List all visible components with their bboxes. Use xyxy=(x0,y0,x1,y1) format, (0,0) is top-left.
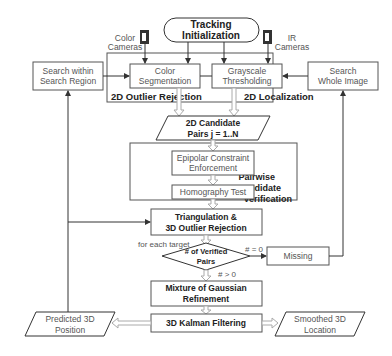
svg-text:Location: Location xyxy=(304,325,336,335)
svg-text:2D Localization: 2D Localization xyxy=(244,91,314,102)
triangulation-node: Triangulation & 3D Outlier Rejection xyxy=(151,209,262,235)
svg-text:Missing: Missing xyxy=(284,251,313,261)
svg-text:Pairs: Pairs xyxy=(197,257,215,266)
svg-text:Thresholding: Thresholding xyxy=(222,76,271,86)
svg-text:Predicted 3D: Predicted 3D xyxy=(45,314,94,324)
svg-text:Color: Color xyxy=(155,66,175,76)
svg-text:# > 0: # > 0 xyxy=(218,270,237,279)
svg-text:Triangulation &: Triangulation & xyxy=(175,212,237,222)
ir-camera-icon xyxy=(263,30,272,44)
svg-text:Refinement: Refinement xyxy=(183,294,229,304)
svg-text:2D Candidate: 2D Candidate xyxy=(186,118,241,128)
flowchart: Tracking Initialization Color Cameras IR… xyxy=(0,0,392,356)
epipolar-node: Epipolar Constraint Enforcement xyxy=(172,151,254,175)
tracking-initialization-node: Tracking Initialization xyxy=(164,18,259,42)
svg-text:Search Region: Search Region xyxy=(40,76,97,86)
svg-text:Mixture of Gaussian: Mixture of Gaussian xyxy=(165,283,246,293)
svg-text:Search: Search xyxy=(330,66,357,76)
homography-test-node: Homography Test xyxy=(172,185,254,199)
search-whole-image-node: Search Whole Image xyxy=(308,62,378,90)
mog-refinement-node: Mixture of Gaussian Refinement xyxy=(151,281,262,306)
svg-text:Tracking: Tracking xyxy=(190,19,231,30)
smoothed-location-node: Smoothed 3D Location xyxy=(275,312,365,336)
grayscale-thresholding-node: Grayscale Thresholding xyxy=(212,64,282,88)
svg-text:Whole Image: Whole Image xyxy=(318,76,368,86)
svg-text:Epipolar Constraint: Epipolar Constraint xyxy=(177,153,250,163)
search-within-region-node: Search within Search Region xyxy=(33,62,103,90)
svg-text:Segmentation: Segmentation xyxy=(139,76,192,86)
svg-text:Smoothed 3D: Smoothed 3D xyxy=(294,314,346,324)
svg-text:# of Verified: # of Verified xyxy=(185,247,228,256)
svg-text:Initialization: Initialization xyxy=(182,30,240,41)
color-segmentation-node: Color Segmentation xyxy=(130,64,200,88)
svg-text:Enforcement: Enforcement xyxy=(189,163,238,173)
svg-text:Cameras: Cameras xyxy=(108,42,142,52)
svg-text:Position: Position xyxy=(55,325,86,335)
svg-text:3D Kalman Filtering: 3D Kalman Filtering xyxy=(166,318,246,328)
svg-text:3D Outlier Rejection: 3D Outlier Rejection xyxy=(165,223,246,233)
svg-text:Cameras: Cameras xyxy=(275,42,309,52)
predicted-position-node: Predicted 3D Position xyxy=(25,312,115,336)
svg-text:# = 0: # = 0 xyxy=(245,245,264,254)
svg-text:Homography Test: Homography Test xyxy=(180,187,247,197)
2d-candidate-pairs-node: 2D Candidate Pairs j = 1..N xyxy=(156,116,270,140)
missing-node: Missing xyxy=(267,247,329,265)
svg-text:Search within: Search within xyxy=(42,66,93,76)
svg-text:Grayscale: Grayscale xyxy=(228,66,267,76)
kalman-filtering-node: 3D Kalman Filtering xyxy=(151,314,262,332)
svg-text:for each target: for each target xyxy=(138,240,190,249)
svg-text:Pairs j = 1..N: Pairs j = 1..N xyxy=(188,129,239,139)
svg-text:2D Outlier Rejection: 2D Outlier Rejection xyxy=(111,91,202,102)
